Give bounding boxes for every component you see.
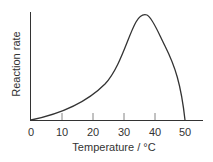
x-axis-label: Temperature / °C xyxy=(72,141,155,153)
x-tick-label-0: 0 xyxy=(28,126,34,138)
x-tick-label-30: 30 xyxy=(118,126,130,138)
x-tick-label-10: 10 xyxy=(56,126,68,138)
x-tick-label-40: 40 xyxy=(149,126,161,138)
reaction-rate-curve xyxy=(31,15,185,120)
x-tick-label-50: 50 xyxy=(179,126,191,138)
x-ticks xyxy=(62,113,155,120)
chart: 0 10 20 30 40 50 Temperature / °C Reacti… xyxy=(0,0,213,162)
y-axis-label: Reaction rate xyxy=(10,31,22,96)
x-tick-label-20: 20 xyxy=(87,126,99,138)
